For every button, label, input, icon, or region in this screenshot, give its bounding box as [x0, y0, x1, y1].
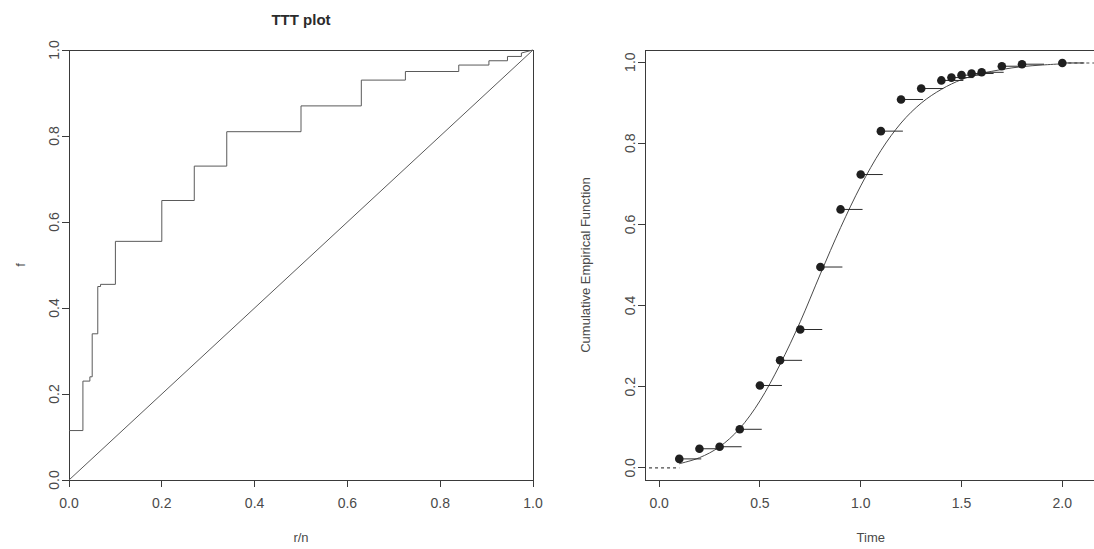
- y-tick-label: 0.2: [46, 384, 62, 404]
- cef-data-point: [836, 205, 845, 214]
- ttt-plot-title: TTT plot: [271, 11, 330, 28]
- ttt-plot-x-axis-title: r/n: [293, 530, 308, 545]
- cef-data-point: [917, 84, 926, 93]
- ttt-plot-x-axis: 0.00.20.40.60.81.0: [59, 480, 543, 511]
- cef-data-point: [1018, 60, 1027, 69]
- x-tick-label: 1.0: [851, 495, 871, 511]
- y-tick-label: 0.0: [622, 458, 638, 478]
- cef-data-point: [967, 69, 976, 78]
- x-tick-label: 0.2: [152, 495, 172, 511]
- cef-data-point: [715, 442, 724, 451]
- x-tick-label: 1.0: [523, 495, 543, 511]
- cef-plot-y-axis-title: Cumulative Empirical Function: [578, 177, 593, 353]
- cef-data-point: [977, 68, 986, 77]
- cef-plot-box: [645, 50, 1094, 480]
- cef-data-point: [776, 356, 785, 365]
- cef-data-point: [735, 425, 744, 434]
- ttt-plot-y-axis-title: f: [13, 263, 28, 267]
- cef-plot-x-axis: 0.00.51.01.52.0: [649, 480, 1072, 511]
- y-tick-label: 0.8: [622, 133, 638, 153]
- cef-data-point: [816, 263, 825, 272]
- cef-data-point: [877, 127, 886, 136]
- y-tick-label: 0.6: [46, 212, 62, 232]
- figure-container: TTT plot0.00.20.40.60.81.0f0.00.20.40.60…: [0, 0, 1094, 549]
- y-tick-label: 0.2: [622, 377, 638, 397]
- cef-data-point: [1058, 59, 1067, 68]
- cef-data-point: [957, 71, 966, 80]
- y-tick-label: 0.4: [622, 296, 638, 316]
- cef-data-point: [675, 455, 684, 464]
- x-tick-label: 0.4: [245, 495, 265, 511]
- cef-plot-y-axis: 0.00.20.40.60.81.0: [622, 52, 645, 477]
- y-tick-label: 1.0: [46, 40, 62, 60]
- cef-data-point: [796, 325, 805, 334]
- y-tick-label: 1.0: [622, 52, 638, 72]
- x-tick-label: 0.0: [59, 495, 79, 511]
- x-tick-label: 0.5: [750, 495, 770, 511]
- cef-data-point: [998, 62, 1007, 71]
- x-tick-label: 0.0: [649, 495, 669, 511]
- ttt-plot-y-axis: 0.00.20.40.60.81.0: [46, 40, 69, 490]
- cef-data-point: [947, 73, 956, 82]
- x-tick-label: 1.5: [952, 495, 972, 511]
- cef-fitted-curve: [679, 64, 1062, 464]
- y-tick-label: 0.4: [46, 298, 62, 318]
- cef-data-point: [695, 444, 704, 453]
- ttt-step-function-line: [69, 50, 533, 431]
- cumulative-empirical-function-panel: 0.00.20.40.60.81.0Cumulative Empirical F…: [547, 0, 1094, 549]
- cef-plot-x-axis-title: Time: [857, 530, 885, 545]
- ttt-plot-panel: TTT plot0.00.20.40.60.81.0f0.00.20.40.60…: [0, 0, 547, 549]
- cef-data-point: [937, 76, 946, 85]
- x-tick-label: 2.0: [1053, 495, 1073, 511]
- y-tick-label: 0.8: [46, 126, 62, 146]
- y-tick-label: 0.0: [46, 470, 62, 490]
- x-tick-label: 0.8: [430, 495, 450, 511]
- x-tick-label: 0.6: [338, 495, 358, 511]
- y-tick-label: 0.6: [622, 214, 638, 234]
- ttt-plot-canvas: TTT plot0.00.20.40.60.81.0f0.00.20.40.60…: [0, 0, 547, 549]
- cumulative-empirical-function-canvas: 0.00.20.40.60.81.0Cumulative Empirical F…: [547, 0, 1094, 549]
- cef-data-point: [856, 170, 865, 179]
- cef-data-point: [897, 95, 906, 104]
- cef-empirical-points-group: [675, 59, 1084, 464]
- cef-data-point: [756, 381, 765, 390]
